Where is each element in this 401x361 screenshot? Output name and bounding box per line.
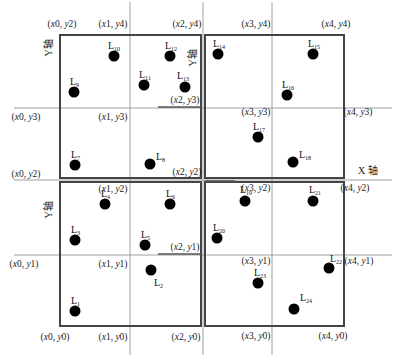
node-dot-icon (70, 160, 81, 171)
quadrant-frames (60, 35, 344, 326)
node-label: L13 (177, 70, 189, 82)
node-label: L8 (156, 151, 165, 163)
node-label: L3 (71, 224, 80, 236)
node-L23: L23 (253, 267, 267, 289)
node-dot-icon (69, 87, 80, 98)
node-L22: L22 (324, 253, 343, 274)
coord-label-x2y0: (x2, y0) (171, 332, 200, 343)
node-L3: L3 (70, 224, 81, 246)
node-dot-icon (145, 159, 156, 170)
node-label: L12 (165, 40, 177, 52)
node-label: L16 (282, 79, 294, 91)
node-dot-icon (253, 278, 264, 289)
coord-label-x3y3: (x3, y3) (241, 107, 270, 118)
node-L12: L12 (165, 40, 178, 62)
node-L15: L15 (308, 38, 321, 60)
node-dot-icon (324, 263, 335, 274)
node-L5: L5 (140, 229, 151, 251)
node-label: L24 (300, 292, 312, 304)
node-L21: L21 (308, 184, 322, 207)
y-axis-label-top-right: Y轴 (186, 49, 198, 66)
coord-label-x0y0: (x0, y0) (40, 332, 69, 343)
node-L10: L10 (108, 40, 120, 62)
node-label: L21 (309, 184, 321, 196)
node-label: L20 (213, 222, 225, 234)
quadrant-frame-bottom-right (205, 182, 344, 326)
node-dot-icon (165, 199, 176, 210)
coord-label-x4y1: (x4, y1) (344, 256, 373, 267)
coord-label-x0y3: (x0, y3) (11, 112, 40, 123)
coord-label-x2y2: (x2, y2) (172, 167, 201, 178)
coord-label-x1y3: (x1, y3) (98, 112, 127, 123)
node-L14: L14 (213, 38, 226, 60)
coord-label-x1y4: (x1, y4) (98, 19, 127, 30)
node-L13: L13 (177, 70, 191, 93)
node-dot-icon (165, 51, 176, 62)
node-dot-icon (289, 304, 300, 315)
node-L16: L16 (282, 79, 295, 101)
node-dot-icon (139, 80, 150, 91)
coord-label-x4y0: (x4, y0) (318, 331, 347, 342)
coord-label-x3y2: (x3, y2) (241, 183, 270, 194)
coord-label-x0y1: (x0, y1) (9, 259, 38, 270)
node-label: L2 (154, 277, 163, 289)
node-L20: L20 (212, 222, 226, 244)
coord-label-x4y3: (x4, y3) (343, 107, 372, 118)
node-L1: L1 (70, 295, 81, 317)
coord-label-x3y4: (x3, y4) (241, 19, 270, 30)
node-dot-icon (308, 49, 319, 60)
coord-label-x2y4: (x2, y4) (172, 19, 201, 30)
coord-label-x2y1: (x2, y1) (170, 242, 199, 253)
coord-label-x3y0: (x3, y0) (241, 331, 270, 342)
node-L24: L24 (289, 292, 313, 315)
y-axis-label-top-left: Y轴 (42, 39, 54, 56)
coord-label-x0y2: (x0, y2) (11, 169, 40, 180)
node-L17: L17 (253, 121, 266, 143)
y-axis-label-bottom-left: Y轴 (42, 201, 54, 218)
node-label: L15 (308, 38, 320, 50)
coord-label-x1y0: (x1, y0) (98, 332, 127, 343)
node-dot-icon (253, 132, 264, 143)
node-dot-icon (180, 82, 191, 93)
node-L6: L6 (165, 188, 176, 210)
node-L18: L18 (288, 149, 312, 168)
node-L7: L7 (70, 149, 81, 171)
node-dot-icon (288, 157, 299, 168)
node-label: L14 (213, 38, 225, 50)
node-label: L18 (299, 149, 311, 161)
coord-label-x4y4: (x4, y4) (321, 19, 350, 30)
coord-label-x1y2: (x1, y2) (98, 184, 127, 195)
coord-label-x1y1: (x1, y1) (98, 259, 127, 270)
node-label: L7 (71, 149, 80, 161)
node-dot-icon (100, 199, 111, 210)
node-label: L17 (253, 121, 265, 133)
coord-label-x3y1: (x3, y1) (241, 256, 270, 267)
coord-label-x0y2_top: (x0, y2) (47, 19, 76, 30)
coord-label-x4y2: (x4, y2) (340, 183, 369, 194)
node-dot-icon (213, 49, 224, 60)
node-label: L6 (166, 188, 175, 200)
node-dot-icon (140, 240, 151, 251)
coord-label-x2y3: (x2, y3) (170, 95, 199, 106)
node-dot-icon (282, 90, 293, 101)
quadrant-frame-top-right (205, 35, 344, 178)
node-dot-icon (308, 196, 319, 207)
x-axis-label: X 轴 (358, 164, 378, 176)
node-L8: L8 (145, 151, 166, 170)
node-dot-icon (70, 306, 81, 317)
node-label: L1 (71, 295, 80, 307)
node-label: L11 (139, 69, 151, 81)
node-dot-icon (70, 235, 81, 246)
node-dot-icon (109, 51, 120, 62)
node-dot-icon (212, 233, 223, 244)
sensor-grid-diagram: L1L2L3L4L5L6L7L8L9L10L11L12L13L14L15L16L… (0, 0, 401, 361)
axis-labels: X 轴 Y轴 Y轴 Y轴 (42, 39, 378, 218)
node-dot-icon (240, 196, 251, 207)
node-label: L10 (108, 40, 120, 52)
node-label: L5 (141, 229, 150, 241)
node-dot-icon (146, 265, 157, 276)
node-label: L9 (70, 76, 79, 88)
node-L2: L2 (146, 265, 164, 290)
node-label: L23 (254, 267, 266, 279)
node-L11: L11 (139, 69, 151, 91)
